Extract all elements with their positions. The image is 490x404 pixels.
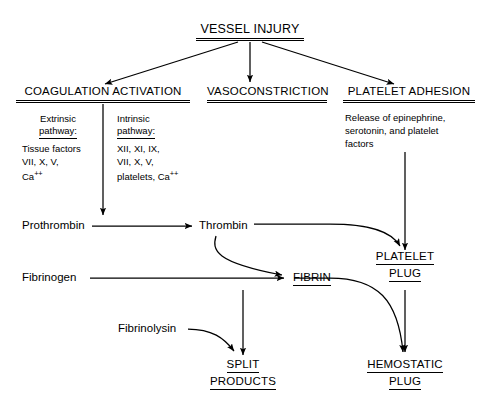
edge-injury-to-platelet-adhesion: [262, 42, 394, 84]
platelet-release-line3: factors: [345, 138, 374, 149]
node-fibrinolysin: Fibrinolysin: [118, 322, 176, 335]
edge-injury-to-coagulation: [105, 42, 238, 84]
extrinsic-title-line2: pathway:: [39, 125, 77, 136]
intrinsic-factors-line1: XII, XI, IX,: [117, 143, 160, 154]
platelet-release-line1: Release of epinephrine,: [345, 112, 445, 123]
label-extrinsic-pathway: Extrinsic pathway:: [24, 113, 92, 139]
extrinsic-factors-line1: Tissue factors: [22, 143, 81, 154]
intrinsic-factors-line3: platelets, Ca: [117, 171, 170, 182]
edge-fibrin-to-hemostatic-plug: [294, 278, 403, 352]
split-products-line2: PRODUCTS: [210, 375, 276, 390]
label-intrinsic-pathway: Intrinsic pathway:: [117, 113, 181, 139]
extrinsic-factors-line2: VII, X, V,: [22, 156, 59, 167]
hemostasis-flow-diagram: VESSEL INJURY COAGULATION ACTIVATION VAS…: [0, 0, 490, 404]
split-products-line1: SPLIT: [227, 358, 260, 373]
label-intrinsic-factors: XII, XI, IX, VII, X, V, platelets, Ca++: [117, 143, 203, 184]
node-hemostatic-plug: HEMOSTATIC PLUG: [353, 358, 457, 390]
intrinsic-factors-line2: VII, X, V,: [117, 156, 154, 167]
label-platelet-release-factors: Release of epinephrine, serotonin, and p…: [345, 112, 485, 150]
hemostatic-plug-line2: PLUG: [389, 375, 421, 390]
intrinsic-title-line2: pathway:: [117, 125, 155, 136]
node-vessel-injury: VESSEL INJURY: [196, 22, 304, 41]
connector-layer: [0, 0, 490, 404]
intrinsic-title-line1: Intrinsic: [117, 113, 150, 124]
edge-thrombin-to-fibrin: [215, 236, 282, 275]
platelet-release-line2: serotonin, and platelet: [345, 125, 438, 136]
node-platelet-plug: PLATELET PLUG: [360, 250, 450, 282]
node-prothrombin: Prothrombin: [22, 219, 85, 232]
intrinsic-calcium-superscript: ++: [170, 169, 178, 178]
node-fibrin: FIBRIN: [293, 271, 331, 286]
node-fibrinogen: Fibrinogen: [22, 271, 76, 284]
node-thrombin: Thrombin: [199, 219, 248, 232]
node-vasoconstriction: VASOCONSTRICTION: [207, 85, 327, 103]
fibrin-label: FIBRIN: [293, 271, 331, 286]
node-split-products: SPLIT PRODUCTS: [196, 358, 290, 390]
hemostatic-plug-line1: HEMOSTATIC: [367, 358, 443, 373]
extrinsic-calcium-superscript: ++: [34, 169, 42, 178]
edge-fibrinolysin-to-split-products: [188, 329, 234, 351]
label-extrinsic-factors: Tissue factors VII, X, V, Ca++: [22, 143, 100, 184]
extrinsic-title-line1: Extrinsic: [40, 113, 76, 124]
edge-thrombin-to-platelet-plug: [254, 224, 400, 246]
node-coagulation-activation: COAGULATION ACTIVATION: [16, 85, 190, 103]
node-platelet-adhesion: PLATELET ADHESION: [343, 85, 475, 103]
platelet-plug-line1: PLATELET: [376, 250, 434, 265]
platelet-plug-line2: PLUG: [389, 267, 421, 282]
extrinsic-factors-line3: Ca: [22, 171, 34, 182]
